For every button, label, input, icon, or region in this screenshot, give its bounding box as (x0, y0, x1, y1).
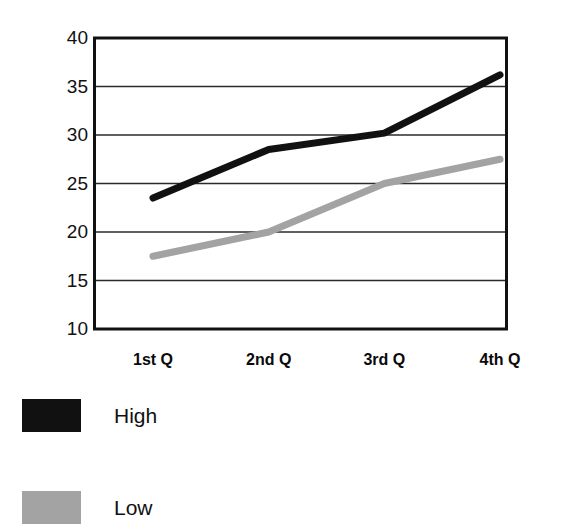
series-line-high (153, 75, 500, 198)
legend-item-high: High (0, 396, 300, 442)
x-axis-tick-labels: 1st Q2nd Q3rd Q4th Q (0, 348, 587, 378)
page-edge (0, 515, 587, 523)
plot-canvas (0, 0, 587, 345)
x-tick-label: 4th Q (480, 352, 521, 368)
chart-legend: High Low (0, 396, 300, 488)
legend-swatch-high (22, 399, 81, 432)
x-tick-label: 1st Q (133, 352, 173, 368)
gridlines (95, 87, 507, 281)
legend-item-low: Low (0, 442, 300, 488)
x-tick-label: 2nd Q (246, 352, 291, 368)
plot-area: 40353025201510 1st Q2nd Q3rd Q4th Q (0, 0, 587, 345)
x-tick-label: 3rd Q (363, 352, 405, 368)
legend-label-high: High (114, 399, 157, 432)
